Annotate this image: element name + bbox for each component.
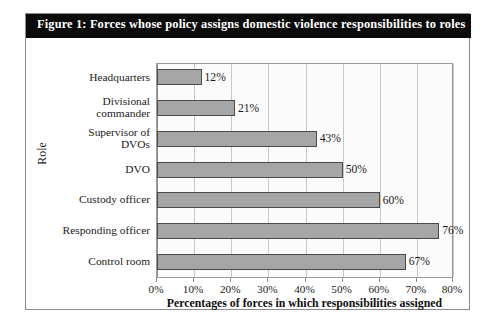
bar-value-label: 43% bbox=[320, 133, 341, 145]
x-tick-mark bbox=[452, 278, 453, 282]
category-label: Custody officer bbox=[32, 194, 150, 206]
category-label: DVO bbox=[32, 164, 150, 176]
category-label: Responding officer bbox=[32, 225, 150, 237]
chart-canvas: Role HeadquartersDivisional commanderSup… bbox=[26, 38, 471, 311]
bar bbox=[157, 254, 406, 270]
bar bbox=[157, 100, 235, 116]
bar bbox=[157, 223, 439, 239]
category-label: Control room bbox=[32, 256, 150, 268]
x-tick-label: 50% bbox=[331, 283, 352, 295]
figure-caption-band: Figure 1: Forces whose policy assigns do… bbox=[26, 14, 471, 38]
x-tick-label: 40% bbox=[294, 283, 315, 295]
bar-value-label: 60% bbox=[383, 195, 404, 207]
x-tick-mark bbox=[267, 278, 268, 282]
x-tick-mark bbox=[305, 278, 306, 282]
x-tick-label: 60% bbox=[368, 283, 389, 295]
figure-caption-text: Figure 1: Forces whose policy assigns do… bbox=[37, 17, 465, 32]
category-label: Divisional commander bbox=[32, 96, 150, 119]
plot-region bbox=[156, 63, 453, 278]
x-tick-label: 10% bbox=[183, 283, 204, 295]
bar bbox=[157, 192, 380, 208]
bar bbox=[157, 131, 317, 147]
x-tick-label: 0% bbox=[149, 283, 164, 295]
x-tick-mark bbox=[342, 278, 343, 282]
x-tick-mark bbox=[193, 278, 194, 282]
bar bbox=[157, 69, 202, 85]
bar-value-label: 67% bbox=[409, 256, 430, 268]
x-tick-label: 70% bbox=[406, 283, 427, 295]
gridline bbox=[343, 64, 344, 277]
x-tick-label: 30% bbox=[257, 283, 278, 295]
category-label: Supervisor of DVOs bbox=[32, 127, 150, 150]
x-tick-mark bbox=[230, 278, 231, 282]
gridline bbox=[453, 64, 454, 277]
bar-value-label: 21% bbox=[238, 103, 259, 115]
bar-value-label: 76% bbox=[442, 225, 463, 237]
category-label: Headquarters bbox=[32, 72, 150, 84]
y-axis-category-labels: HeadquartersDivisional commanderSupervis… bbox=[26, 63, 150, 278]
bar-value-label: 50% bbox=[346, 164, 367, 176]
x-tick-label: 20% bbox=[220, 283, 241, 295]
bar-value-label: 12% bbox=[205, 72, 226, 84]
gridline bbox=[380, 64, 381, 277]
gridline bbox=[417, 64, 418, 277]
x-tick-mark bbox=[416, 278, 417, 282]
bar bbox=[157, 162, 343, 178]
x-axis-title: Percentages of forces in which responsib… bbox=[156, 296, 453, 311]
x-tick-label: 80% bbox=[442, 283, 463, 295]
figure-container: Figure 1: Forces whose policy assigns do… bbox=[25, 13, 470, 310]
x-tick-mark bbox=[156, 278, 157, 282]
x-tick-mark bbox=[379, 278, 380, 282]
plot-inner bbox=[157, 64, 452, 277]
